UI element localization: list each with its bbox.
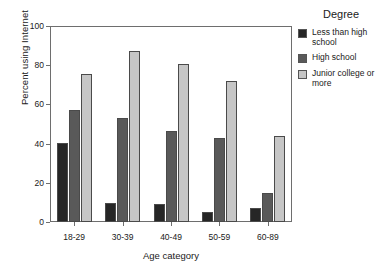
legend-swatch-icon	[298, 54, 307, 63]
x-axis-tick-label: 50-59	[209, 232, 231, 242]
legend-title: Degree	[298, 8, 384, 20]
y-axis-tick-mark	[46, 65, 50, 66]
x-axis-tick-mark	[219, 222, 220, 226]
legend-item[interactable]: Junior college or more	[298, 68, 390, 88]
legend-item[interactable]: High school	[298, 52, 390, 63]
x-axis-tick-mark	[171, 222, 172, 226]
bar	[262, 193, 273, 222]
y-axis-tick-mark	[46, 144, 50, 145]
bar	[202, 212, 213, 222]
bar	[117, 118, 128, 222]
x-axis-tick-mark	[74, 222, 75, 226]
bar	[69, 110, 80, 222]
bar	[154, 204, 165, 222]
legend-swatch-icon	[298, 29, 307, 38]
legend-entries: Less than high schoolHigh schoolJunior c…	[298, 27, 390, 88]
bar	[57, 143, 68, 222]
x-axis-tick-mark	[123, 222, 124, 226]
legend-item[interactable]: Less than high school	[298, 27, 390, 47]
legend: Degree Less than high schoolHigh schoolJ…	[298, 8, 390, 93]
bar	[105, 203, 116, 222]
x-axis-tick-label: 40-49	[160, 232, 182, 242]
bar	[129, 51, 140, 222]
bar	[166, 131, 177, 222]
y-axis-tick-label: 0	[16, 218, 44, 227]
chart-figure: Percent using Internet 020406080100 18-2…	[0, 0, 392, 271]
bar	[81, 74, 92, 222]
legend-item-label: Junior college or more	[312, 68, 384, 88]
x-axis-tick-label: 18-29	[63, 232, 85, 242]
bar	[226, 81, 237, 222]
y-axis-tick-mark	[46, 183, 50, 184]
x-axis-tick-label: 30-39	[112, 232, 134, 242]
y-axis-tick-mark	[46, 222, 50, 223]
y-axis-tick-label: 60	[16, 100, 44, 109]
y-axis-tick-label: 100	[16, 22, 44, 31]
x-axis-title: Age category	[50, 250, 292, 261]
y-axis-tick-mark	[46, 104, 50, 105]
bar	[214, 138, 225, 222]
legend-swatch-icon	[298, 70, 307, 79]
x-axis-tick-mark	[268, 222, 269, 226]
bar	[250, 208, 261, 222]
legend-item-label: Less than high school	[312, 27, 384, 47]
y-axis-tick-label: 40	[16, 139, 44, 148]
bar	[178, 64, 189, 222]
y-axis-tick-label: 80	[16, 61, 44, 70]
y-axis-tick-label: 20	[16, 179, 44, 188]
y-axis-tick-mark	[46, 26, 50, 27]
x-axis-tick-label: 60-89	[257, 232, 279, 242]
bar	[274, 136, 285, 222]
legend-item-label: High school	[312, 52, 384, 62]
